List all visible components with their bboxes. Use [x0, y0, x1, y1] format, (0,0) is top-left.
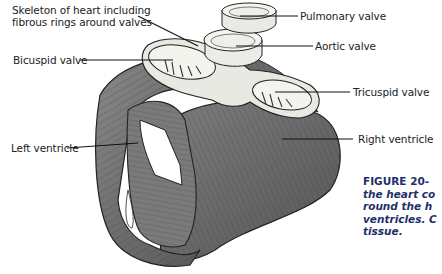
- figure-number: FIGURE 20-: [363, 175, 442, 188]
- caption-line-2: round the h: [363, 200, 442, 213]
- caption-line-1: the heart co: [363, 188, 442, 201]
- label-bicuspid-valve: Bicuspid valve: [13, 54, 87, 66]
- label-aortic-valve: Aortic valve: [315, 40, 376, 52]
- label-skeleton-of-heart: Skeleton of heart including fibrous ring…: [12, 4, 152, 28]
- figure-caption: FIGURE 20- the heart co round the h vent…: [363, 175, 442, 238]
- label-pulmonary-valve: Pulmonary valve: [300, 10, 386, 22]
- caption-line-3: ventricles. C: [363, 213, 442, 226]
- label-tricuspid-valve: Tricuspid valve: [353, 86, 429, 98]
- caption-line-4: tissue.: [363, 225, 442, 238]
- label-skeleton-line-2: fibrous rings around valves: [12, 16, 152, 28]
- label-left-ventricle: Left ventricle: [11, 142, 79, 154]
- label-right-ventricle: Right ventricle: [358, 133, 433, 145]
- label-skeleton-line-1: Skeleton of heart including: [12, 4, 152, 16]
